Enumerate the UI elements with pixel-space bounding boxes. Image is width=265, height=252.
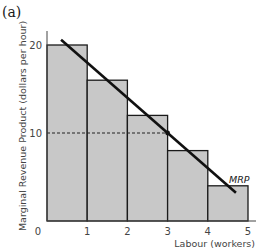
y-tick-labels: 1020 — [29, 40, 42, 139]
x-tick-5: 5 — [245, 226, 251, 237]
mrp-chart: (a) MRP 012345 1020 Labour (workers) Mar… — [0, 0, 265, 252]
bar-2 — [87, 80, 127, 221]
x-axis-title: Labour (workers) — [174, 238, 255, 249]
x-tick-3: 3 — [164, 226, 170, 237]
y-axis-title: Marginal Revenue Product (dollars per ho… — [17, 21, 28, 231]
bar-3 — [127, 115, 167, 221]
equilibrium-point — [165, 131, 170, 136]
y-tick-20: 20 — [29, 40, 42, 51]
x-tick-2: 2 — [124, 226, 130, 237]
x-tick-1: 1 — [84, 226, 90, 237]
panel-label: (a) — [2, 4, 21, 20]
x-tick-4: 4 — [205, 226, 211, 237]
y-tick-10: 10 — [29, 128, 42, 139]
bar-4 — [168, 151, 208, 221]
x-tick-0: 0 — [35, 226, 41, 237]
bar-5 — [208, 186, 248, 221]
mrp-label: MRP — [229, 174, 250, 185]
x-tick-labels: 012345 — [35, 226, 251, 237]
